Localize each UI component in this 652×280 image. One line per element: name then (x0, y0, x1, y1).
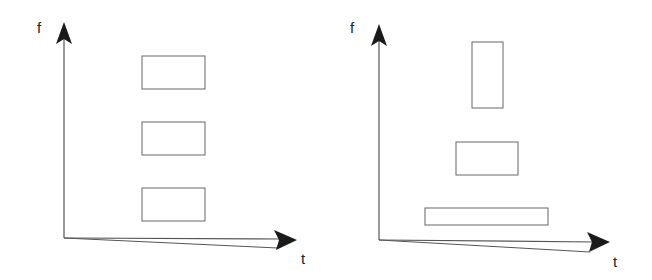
tile (425, 208, 548, 225)
right-x-axis-label: t (613, 253, 618, 270)
right-y-axis-label: f (350, 19, 355, 36)
left-x-axis-label: t (301, 250, 306, 267)
left-x-axis-skew (64, 238, 278, 248)
left-diagram: f t (37, 19, 306, 267)
left-x-axis (64, 238, 284, 239)
tile (142, 56, 205, 89)
figure: f t f t (0, 0, 652, 280)
tile (456, 142, 518, 175)
tile (142, 122, 205, 155)
left-x-arrowhead-icon (274, 230, 297, 250)
tile (142, 188, 205, 221)
tile (472, 42, 503, 108)
right-diagram: f t (350, 19, 618, 270)
left-y-axis-label: f (37, 19, 42, 36)
